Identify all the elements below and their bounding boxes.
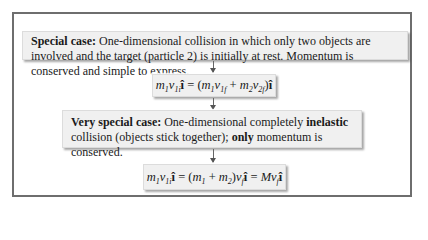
equation-1: m1v1iî = (m1v1f + m2v2f)î — [156, 78, 272, 92]
only-emphasis: only — [232, 130, 254, 144]
arrow-down-icon — [213, 98, 214, 109]
equation-2: m1v1iî = (m1 + m2)vfî = Mvfî — [147, 170, 283, 184]
special-case-label: Special case: — [31, 34, 96, 48]
equation-momentum-conservation: m1v1iî = (m1v1f + m2v2f)î — [152, 74, 276, 97]
arrow-down-icon — [213, 61, 214, 72]
very-special-case-box: Very special case: One-dimensional compl… — [62, 110, 362, 148]
equation-inelastic-collision: m1v1iî = (m1 + m2)vfî = Mvfî — [143, 164, 286, 190]
arrow-down-icon — [213, 149, 214, 162]
very-special-case-label: Very special case: — [71, 115, 161, 129]
special-case-box: Special case: One-dimensional collision … — [22, 31, 408, 60]
inelastic-emphasis: inelastic — [306, 115, 348, 129]
very-special-case-text: collision (objects stick together); — [71, 130, 232, 144]
very-special-case-text: One-dimensional completely — [161, 115, 306, 129]
